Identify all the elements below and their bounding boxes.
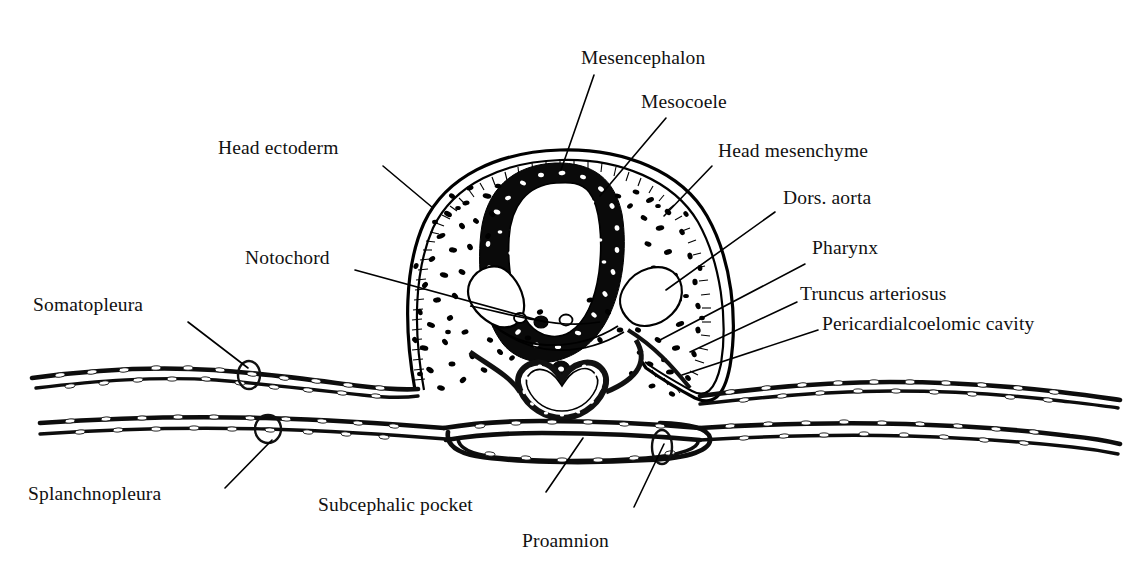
diagram-canvas xyxy=(0,0,1144,588)
label-head-mesenchyme: Head mesenchyme xyxy=(718,141,868,161)
leader-dors-aorta xyxy=(666,212,775,290)
label-somatopleura: Somatopleura xyxy=(33,295,143,315)
leader-subcephalic-pocket xyxy=(546,438,583,492)
leader-splanchnopleura xyxy=(225,440,272,488)
leader-head-ectoderm xyxy=(383,166,433,208)
subcephalic-pocket-fold xyxy=(444,420,710,464)
label-pharynx: Pharynx xyxy=(812,238,878,258)
label-splanchnopleura: Splanchnopleura xyxy=(28,484,161,504)
label-dors-aorta: Dors. aorta xyxy=(783,188,871,208)
leader-proamnion xyxy=(634,444,664,507)
leader-pericardial-cavity xyxy=(682,330,818,375)
label-head-ectoderm: Head ectoderm xyxy=(218,138,339,158)
leader-mesocoele xyxy=(600,118,666,196)
label-subcephalic-pocket: Subcephalic pocket xyxy=(318,495,473,515)
embryo-cross-section-figure: Mesencephalon Mesocoele Head mesenchyme … xyxy=(0,0,1144,588)
label-truncus-arteriosus: Truncus arteriosus xyxy=(800,284,947,304)
leader-somatopleura xyxy=(188,322,248,368)
label-notochord: Notochord xyxy=(245,248,330,268)
leader-truncus-arteriosus xyxy=(690,302,797,352)
label-pericardialcoelomic-cavity: Pericardialcoelomic cavity xyxy=(822,314,1034,334)
leader-mesencephalon xyxy=(561,75,594,170)
label-mesencephalon: Mesencephalon xyxy=(581,48,705,68)
label-mesocoele: Mesocoele xyxy=(641,92,727,112)
label-proamnion: Proamnion xyxy=(522,531,609,551)
